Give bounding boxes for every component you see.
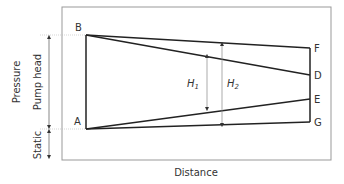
distance-axis-label: Distance xyxy=(174,167,218,178)
point-e-label: E xyxy=(314,94,320,105)
point-a-label: A xyxy=(74,116,81,127)
pressure-distance-diagram: H1 H2 B A F D E G Pressure Pump head Sta… xyxy=(0,0,344,184)
point-f-label: F xyxy=(314,43,320,54)
line-ag xyxy=(86,122,310,129)
line-ae xyxy=(86,99,310,129)
point-g-label: G xyxy=(314,117,322,128)
pump-head-label: Pump head xyxy=(32,54,43,110)
h2-label: H2 xyxy=(227,78,240,91)
pressure-axis-label: Pressure xyxy=(11,61,22,104)
point-d-label: D xyxy=(314,70,322,81)
h1-label: H1 xyxy=(187,78,199,91)
point-b-label: B xyxy=(75,22,82,33)
static-label: Static xyxy=(32,131,43,160)
